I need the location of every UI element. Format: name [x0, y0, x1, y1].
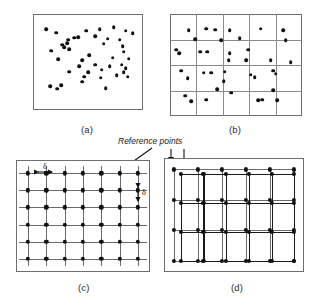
data-point [115, 73, 119, 77]
data-point [204, 27, 208, 31]
data-point [124, 29, 128, 33]
data-point [122, 50, 126, 54]
delta-vertical-label: δ [142, 188, 146, 197]
lattice-line-vertical [272, 174, 273, 261]
data-point [100, 68, 104, 72]
data-point [281, 29, 285, 33]
lattice-line-vertical [120, 166, 121, 267]
data-point [72, 36, 76, 40]
data-point [80, 80, 84, 84]
lattice-line-vertical [246, 169, 247, 260]
data-point [209, 71, 213, 75]
data-point [219, 38, 223, 42]
data-point [177, 52, 181, 56]
data-point [269, 58, 273, 62]
data-point [102, 42, 106, 46]
data-point [275, 99, 279, 103]
data-point [99, 76, 103, 80]
data-point [121, 45, 125, 49]
data-point [122, 71, 126, 75]
data-point [227, 58, 231, 62]
lattice-line-vertical [181, 174, 182, 261]
data-point [187, 29, 191, 33]
lattice-line-horizontal [181, 203, 294, 204]
data-point [82, 75, 86, 79]
panel-a-scatter [33, 14, 143, 110]
grid-line-horizontal [170, 91, 302, 92]
data-point [244, 58, 248, 62]
reference-points-label: Reference points [118, 136, 182, 146]
data-point [180, 69, 184, 73]
data-point [228, 29, 232, 33]
lattice-line-vertical [203, 174, 204, 261]
panel-d-caption: (d) [231, 282, 243, 293]
data-point [57, 58, 61, 62]
data-point [198, 50, 202, 54]
data-point [202, 71, 206, 75]
grid-line-horizontal [170, 40, 302, 41]
data-point [67, 47, 71, 51]
data-point [274, 72, 278, 76]
data-point [259, 27, 263, 31]
data-point [106, 37, 110, 41]
panel-c-caption: (c) [78, 282, 90, 293]
data-point [56, 87, 60, 91]
lattice-line-vertical [249, 174, 250, 261]
data-point [126, 75, 130, 79]
data-point [49, 84, 53, 88]
data-point [118, 38, 122, 42]
data-point [55, 31, 59, 35]
lattice-line-horizontal [181, 261, 294, 262]
data-point [260, 98, 264, 102]
data-point [111, 56, 115, 60]
data-point [108, 65, 112, 69]
data-point [112, 26, 116, 30]
data-point [93, 34, 97, 38]
lattice-line-vertical [46, 166, 47, 267]
lattice-line-horizontal [174, 169, 294, 170]
panel-b-caption: (b) [229, 124, 241, 135]
lattice-line-vertical [138, 166, 139, 267]
data-point [193, 37, 197, 41]
lattice-line-vertical [65, 166, 66, 267]
data-point [204, 98, 208, 102]
panel-d-offset-lattices [164, 158, 304, 272]
data-point [190, 100, 194, 104]
lattice-line-vertical [28, 166, 29, 267]
data-point [186, 77, 190, 81]
lattice-line-vertical [174, 169, 175, 260]
lattice-line-vertical [226, 174, 227, 261]
data-point [222, 80, 226, 84]
data-point [67, 70, 71, 74]
panel-d-frame [164, 158, 304, 272]
lattice-line-horizontal [181, 174, 294, 175]
lattice-line-vertical [83, 166, 84, 267]
delta-horizontal-label: δ [43, 162, 47, 171]
data-point [223, 70, 227, 74]
data-point [93, 63, 97, 67]
lattice-line-horizontal [181, 232, 294, 233]
data-point [253, 76, 257, 80]
data-point [213, 28, 217, 32]
data-point [87, 53, 91, 57]
data-point [77, 65, 81, 69]
data-point [284, 38, 288, 42]
data-point [289, 60, 293, 64]
data-point [65, 41, 69, 45]
data-point [124, 66, 128, 70]
panel-b-scatter-grid [170, 14, 302, 116]
data-point [247, 48, 251, 52]
data-point [98, 27, 102, 31]
data-point [206, 50, 210, 54]
data-point [127, 57, 131, 61]
panel-a-caption: (a) [81, 124, 93, 135]
data-point [76, 35, 80, 39]
panel-c-reference-lattice: δ δ [16, 160, 150, 272]
data-point [131, 32, 135, 36]
lattice-line-vertical [198, 169, 199, 260]
lattice-line-vertical [222, 169, 223, 260]
data-point [271, 88, 275, 92]
data-point [86, 71, 90, 75]
data-point [59, 84, 63, 88]
grid-line-horizontal [170, 65, 302, 66]
